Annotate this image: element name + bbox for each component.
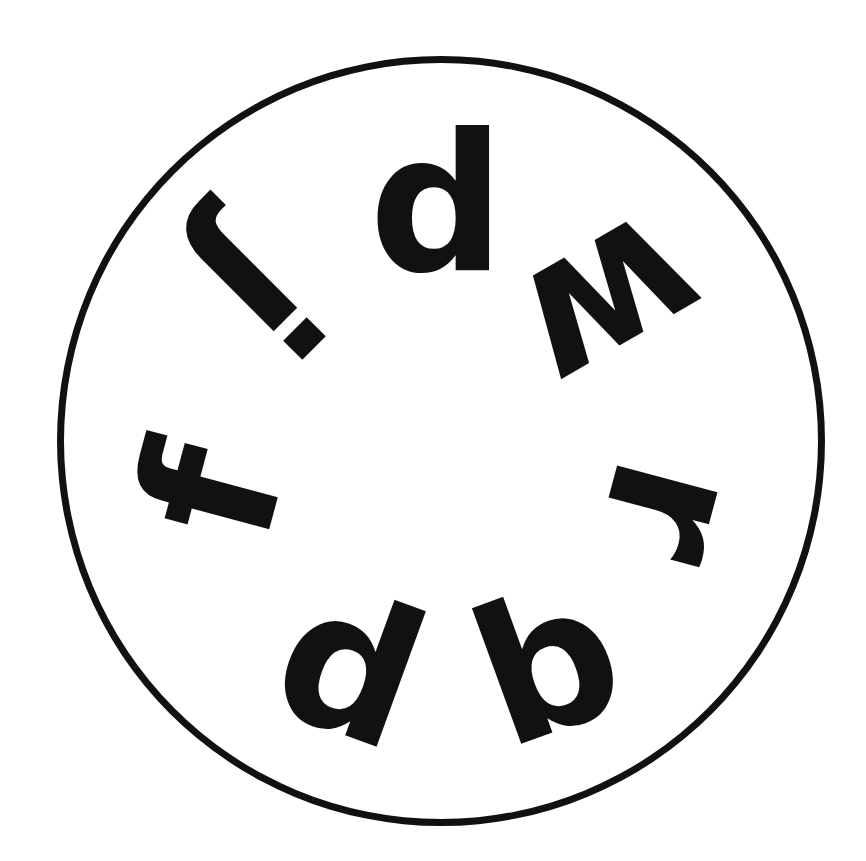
letter-wheel-figure: d w r b d f j — [0, 0, 866, 861]
